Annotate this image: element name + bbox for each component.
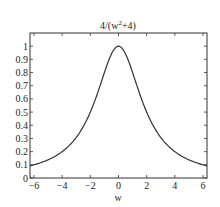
y-tick-label: 0 bbox=[23, 173, 28, 184]
x-tick-label: −2 bbox=[85, 180, 96, 191]
axes-box bbox=[30, 33, 207, 178]
y-tick-label: 0.3 bbox=[16, 133, 29, 144]
x-tick-label: 4 bbox=[172, 180, 177, 191]
x-axis-label: w bbox=[114, 192, 122, 203]
x-tick-label: 2 bbox=[144, 180, 149, 191]
data-line bbox=[30, 46, 207, 166]
y-tick-label: 0.5 bbox=[16, 107, 29, 118]
x-tick-label: −4 bbox=[57, 180, 68, 191]
y-tick-label: 0.7 bbox=[16, 80, 29, 91]
x-tick-label: 0 bbox=[116, 180, 121, 191]
y-tick-label: 0.2 bbox=[16, 146, 29, 157]
x-tick-label: −6 bbox=[29, 180, 40, 191]
chart-figure: 4/(w2+4) −6−4−2024600.10.20.30.40.50.60.… bbox=[0, 0, 220, 207]
y-tick-label: 1 bbox=[23, 41, 28, 52]
y-tick-label: 0.9 bbox=[16, 54, 29, 65]
y-tick-label: 0.8 bbox=[16, 67, 29, 78]
axis-ticks: −6−4−2024600.10.20.30.40.50.60.70.80.91 bbox=[16, 33, 208, 191]
y-tick-label: 0.4 bbox=[16, 120, 29, 131]
x-tick-label: 6 bbox=[201, 180, 206, 191]
y-tick-label: 0.1 bbox=[16, 159, 29, 170]
chart-title: 4/(w2+4) bbox=[100, 19, 136, 32]
y-tick-label: 0.6 bbox=[16, 93, 29, 104]
